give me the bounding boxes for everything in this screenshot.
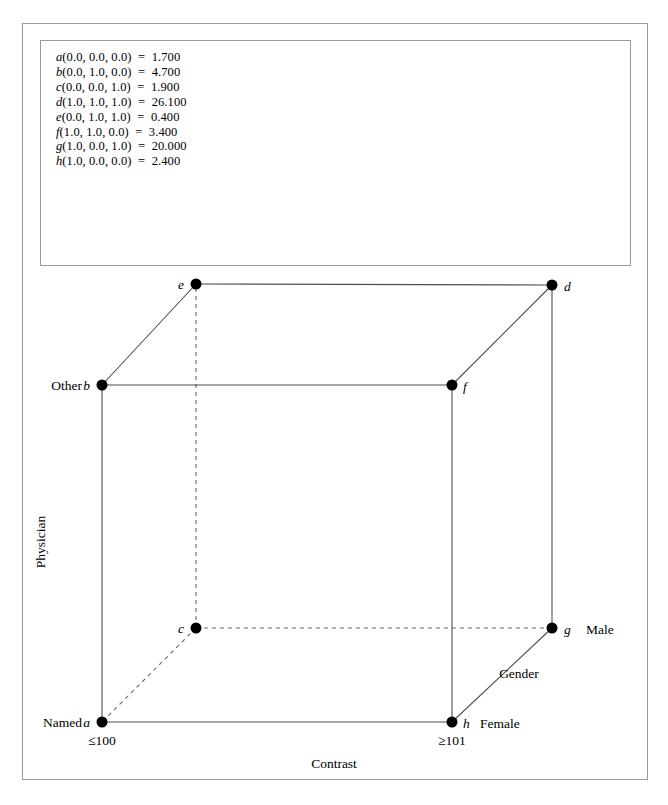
vertex-g[interactable] xyxy=(547,623,558,634)
level-label-named: Named xyxy=(43,715,82,730)
level-label-female: Female xyxy=(480,716,520,731)
vertex-a[interactable] xyxy=(97,717,108,728)
level-label-other: Other xyxy=(51,378,82,393)
axis-title-contrast: Contrast xyxy=(311,756,357,771)
edge-b-e xyxy=(102,284,196,385)
vertex-label-h: h xyxy=(463,716,470,731)
vertex-label-e: e xyxy=(178,277,184,292)
vertex-label-g: g xyxy=(564,622,571,637)
vertex-label-d: d xyxy=(564,279,571,294)
page-root: a(0.0, 0.0, 0.0) = 1.700 b(0.0, 1.0, 0.0… xyxy=(0,0,668,805)
vertex-b[interactable] xyxy=(97,380,108,391)
level-label-male: Male xyxy=(586,622,614,637)
vertex-c[interactable] xyxy=(191,623,202,634)
cube-plot: a b c d e f g h Named Other ≤100 ≥101 Fe… xyxy=(0,0,668,805)
tick-label-contrast-low: ≤100 xyxy=(88,733,116,748)
vertex-label-c: c xyxy=(178,621,184,636)
axis-title-physician: Physician xyxy=(33,516,48,569)
vertex-e[interactable] xyxy=(191,279,202,290)
edge-f-d xyxy=(452,285,552,385)
vertex-f[interactable] xyxy=(447,380,458,391)
vertex-label-a: a xyxy=(83,715,90,730)
vertex-d[interactable] xyxy=(547,280,558,291)
axis-title-gender: Gender xyxy=(499,666,539,681)
edge-e-d xyxy=(196,284,552,285)
tick-label-contrast-high: ≥101 xyxy=(438,733,466,748)
vertex-label-b: b xyxy=(83,378,90,393)
vertex-label-f: f xyxy=(463,379,469,394)
edge-c-a xyxy=(102,628,196,722)
vertex-h[interactable] xyxy=(447,717,458,728)
